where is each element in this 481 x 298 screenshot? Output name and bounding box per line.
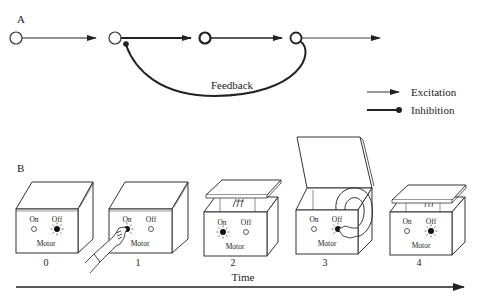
- off-light-unlit: [244, 230, 249, 235]
- on-label: On: [217, 218, 226, 227]
- time-step-label: 2: [231, 257, 236, 268]
- on-label: On: [309, 215, 318, 224]
- neuron-node-1: [10, 32, 22, 44]
- on-label: On: [402, 217, 411, 226]
- time-step-label: 3: [323, 257, 328, 268]
- panel-a: A Feedback Excitation Inhibition: [10, 13, 457, 116]
- inhibition-terminal-dot: [123, 41, 129, 47]
- neuron-node-3: [200, 33, 211, 44]
- legend-inhibition-label: Inhibition: [411, 104, 455, 116]
- on-label: On: [29, 215, 38, 224]
- motor-label: Motor: [412, 241, 431, 250]
- motor-label: Motor: [131, 239, 150, 248]
- neuron-node-2: [109, 32, 121, 44]
- motor-box-0: On Off Motor 0: [16, 182, 93, 268]
- time-step-label: 0: [44, 257, 49, 268]
- off-label: Off: [146, 215, 157, 224]
- motor-box-4: On Off Motor 4: [390, 185, 466, 268]
- on-light-unlit: [32, 227, 37, 232]
- panel-b-label: B: [17, 162, 24, 174]
- off-label: Off: [332, 215, 343, 224]
- motor-label: Motor: [318, 239, 337, 248]
- feedback-diagram: A Feedback Excitation Inhibition B: [0, 0, 481, 298]
- motor-box-2: On Off Motor 2: [204, 180, 281, 268]
- panel-a-label: A: [17, 13, 25, 25]
- time-step-label: 4: [417, 257, 422, 268]
- box-lid: [206, 180, 281, 195]
- on-light-unlit: [312, 227, 317, 232]
- legend-excitation-label: Excitation: [411, 86, 457, 98]
- legend-inhibition-dot: [396, 107, 402, 113]
- off-label: Off: [241, 218, 252, 227]
- box-lid-open: [297, 137, 372, 188]
- off-light-unlit: [149, 227, 154, 232]
- motor-box-1: On Off Motor 1: [85, 182, 188, 273]
- on-light-unlit: [405, 229, 410, 234]
- panel-b: B On Off Motor 0: [16, 137, 466, 287]
- legend: Excitation Inhibition: [367, 86, 457, 116]
- feedback-label: Feedback: [211, 79, 254, 91]
- time-axis-label: Time: [232, 271, 255, 283]
- motor-label: Motor: [37, 239, 56, 248]
- time-step-label: 1: [136, 257, 141, 268]
- motor-label: Motor: [226, 242, 245, 251]
- motor-box-3: On Off Motor 3: [296, 137, 374, 268]
